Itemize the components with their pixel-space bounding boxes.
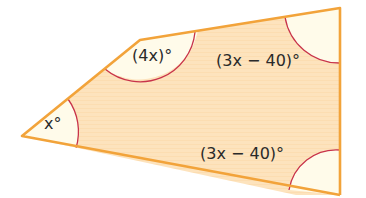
angle-label-upper-left: (4x)° bbox=[132, 48, 172, 64]
angle-label-top-right: (3x − 40)° bbox=[216, 53, 300, 69]
polygon-figure bbox=[0, 0, 366, 198]
angle-label-bottom-right: (3x − 40)° bbox=[200, 146, 284, 162]
angle-label-left: x° bbox=[44, 116, 61, 132]
